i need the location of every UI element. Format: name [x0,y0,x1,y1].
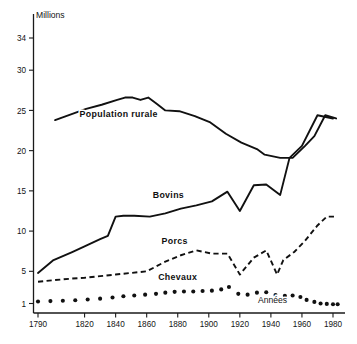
data-point-marker [110,295,114,299]
data-point-marker [331,302,335,306]
data-point-marker [210,289,214,293]
data-point-marker [36,299,40,303]
x-tick-label: 1980 [324,320,343,329]
y-tick-label: 30 [17,66,27,75]
data-point-marker [236,292,240,296]
y-tick-label: 15 [17,187,27,196]
x-tick-label: 1840 [107,320,126,329]
chart-container: 15101520253034 1790182018401860188019001… [0,0,357,344]
x-tick-label: 1880 [169,320,188,329]
y-tick-label: 5 [21,267,26,276]
data-point-marker [219,287,223,291]
data-point-marker [182,289,186,293]
x-tick-label: 1920 [231,320,250,329]
data-point-marker [325,302,329,306]
x-tick-label: 1960 [293,320,312,329]
data-point-marker [264,290,268,294]
data-point-marker [201,289,205,293]
data-point-marker [173,290,177,294]
rural-population-livestock-line-chart: 15101520253034 1790182018401860188019001… [0,0,357,344]
y-tick-label: 10 [17,227,27,236]
x-tick-label: 1860 [138,320,157,329]
plot-background [0,0,357,344]
data-point-marker [319,301,323,305]
data-point-marker [312,300,316,304]
data-point-marker [291,293,295,297]
data-point-marker [227,285,231,289]
y-tick-label: 34 [17,34,27,43]
data-point-marker [298,295,302,299]
data-point-marker [336,302,340,306]
data-point-marker [73,298,77,302]
data-point-marker [154,292,158,296]
data-point-marker [61,299,65,303]
data-point-marker [143,293,147,297]
data-point-marker [246,293,250,297]
data-point-marker [191,289,195,293]
y-tick-label: 1 [21,300,26,309]
data-point-marker [98,297,102,301]
series-label-bovins: Bovins [153,190,184,200]
series-label-porcs: Porcs [162,236,188,246]
x-tick-label: 1900 [200,320,219,329]
data-point-marker [132,293,136,297]
x-tick-label: 1790 [29,320,48,329]
y-tick-label: 20 [17,147,27,156]
data-point-marker [305,298,309,302]
annotation-annes: Années [258,295,287,305]
x-axis-tick-labels: 1790182018401860188019001920194019601980 [29,320,343,329]
data-point-marker [86,297,90,301]
series-label-chevaux: Chevaux [158,272,197,282]
annotation-millions: Millions [36,10,65,20]
data-point-marker [121,294,125,298]
data-point-marker [48,299,52,303]
x-tick-label: 1820 [75,320,94,329]
series-label-population-rurale: Population rurale [80,109,158,119]
y-tick-label: 25 [17,107,27,116]
data-point-marker [163,291,167,295]
x-tick-label: 1940 [262,320,281,329]
